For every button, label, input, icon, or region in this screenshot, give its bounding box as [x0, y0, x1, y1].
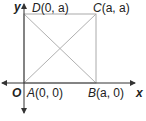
x-axis-label: x [135, 86, 144, 100]
y-axis-label: y [13, 0, 22, 14]
point-b-label: B(a, 0) [88, 86, 124, 100]
point-c-label: C(a, a) [93, 1, 130, 15]
svg-text:A(0, 0): A(0, 0) [26, 86, 63, 100]
coordinate-diagram: y x O D(0, a) C(a, a) A(0, 0) B(a, 0) [0, 0, 146, 121]
svg-text:C(a, a): C(a, a) [93, 1, 130, 15]
origin-label: O [12, 86, 22, 100]
svg-text:B(a, 0): B(a, 0) [88, 86, 124, 100]
point-d-label: D(0, a) [32, 1, 69, 15]
point-a-label: A(0, 0) [26, 86, 63, 100]
svg-text:D(0, a): D(0, a) [32, 1, 69, 15]
